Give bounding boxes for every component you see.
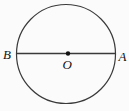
circle-diagram: B A O (0, 0, 129, 111)
diagram-canvas: B A O (0, 0, 129, 111)
label-b: B (3, 47, 11, 62)
center-point-dot (66, 51, 70, 55)
label-o: O (63, 57, 73, 72)
label-a: A (118, 49, 127, 64)
